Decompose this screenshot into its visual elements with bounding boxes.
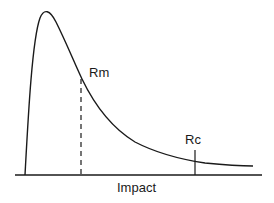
impact-distribution-plot bbox=[0, 0, 274, 203]
diagram-canvas: Rm Rc Impact bbox=[0, 0, 274, 203]
rc-label: Rc bbox=[185, 133, 201, 146]
rm-label: Rm bbox=[89, 66, 109, 79]
x-axis-label: Impact bbox=[117, 181, 156, 194]
distribution-curve bbox=[25, 12, 253, 175]
